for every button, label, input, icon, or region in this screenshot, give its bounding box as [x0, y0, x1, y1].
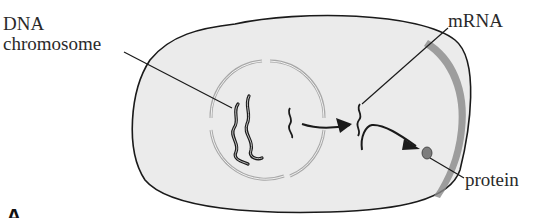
protein-label: protein: [465, 170, 519, 190]
mrna-label: mRNA: [448, 11, 503, 31]
protein-blob: [422, 147, 432, 159]
cell-body: [132, 16, 470, 213]
dna-label-line1: DNA: [3, 14, 44, 34]
dna-label-line2: chromosome: [3, 34, 101, 54]
panel-label: A: [6, 204, 22, 218]
